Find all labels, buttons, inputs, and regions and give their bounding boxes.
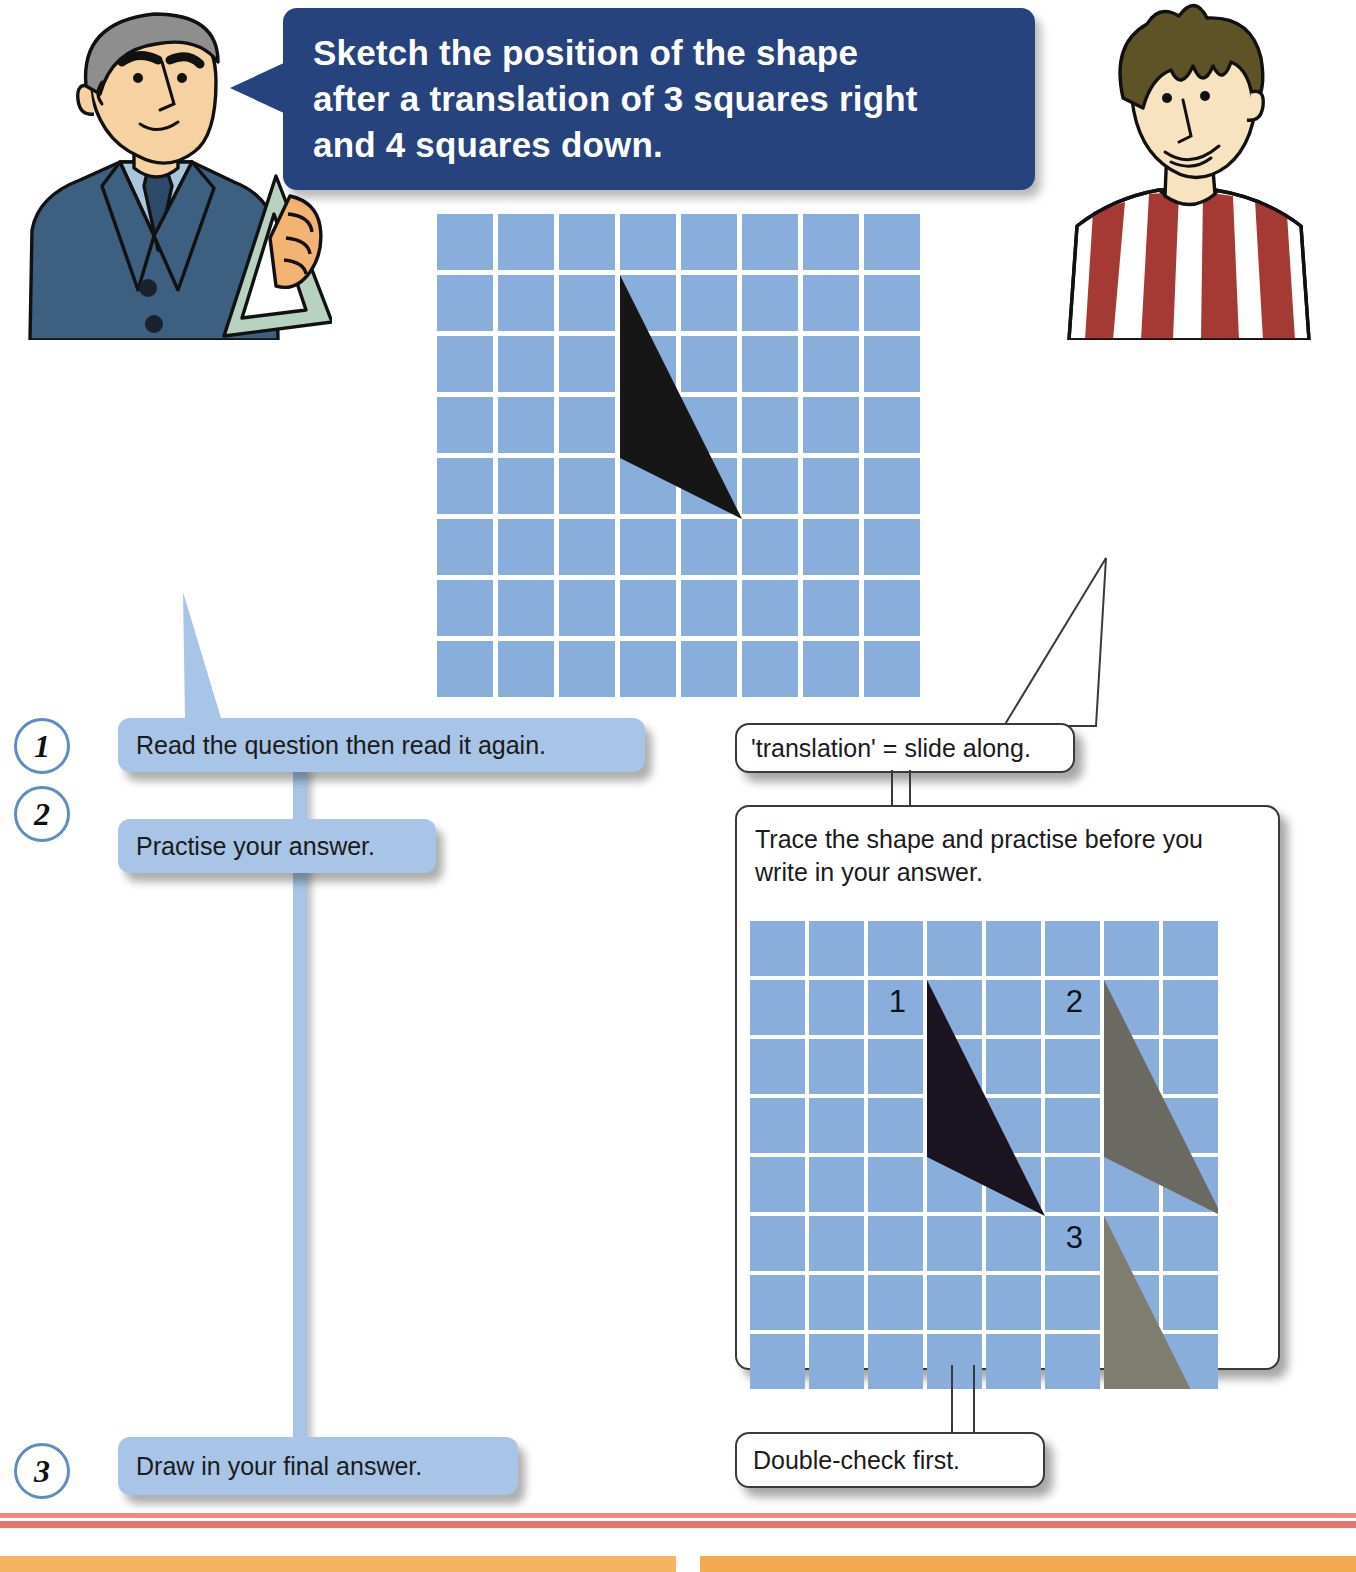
grid-cell[interactable]: [498, 336, 554, 392]
grid-cell[interactable]: [750, 1216, 805, 1271]
grid-cell[interactable]: [742, 336, 798, 392]
grid-cell[interactable]: [803, 397, 859, 453]
grid-cell[interactable]: [803, 519, 859, 575]
grid-cell[interactable]: [864, 336, 920, 392]
grid-cell[interactable]: [437, 519, 493, 575]
grid-cell[interactable]: [1045, 1039, 1100, 1094]
grid-cell[interactable]: [437, 458, 493, 514]
grid-cell[interactable]: [986, 1216, 1041, 1271]
grid-cell[interactable]: [559, 641, 615, 697]
grid-cell[interactable]: [868, 1039, 923, 1094]
trace-practice-panel[interactable]: Trace the shape and practise before you …: [735, 805, 1280, 1370]
grid-cell[interactable]: [750, 980, 805, 1035]
grid-cell[interactable]: [868, 1098, 923, 1153]
grid-cell[interactable]: [809, 1039, 864, 1094]
grid-cell[interactable]: [986, 1275, 1041, 1330]
grid-cell[interactable]: [986, 1039, 1041, 1094]
grid-cell[interactable]: [681, 336, 737, 392]
grid-cell[interactable]: [809, 1098, 864, 1153]
grid-cell[interactable]: [750, 921, 805, 976]
grid-cell[interactable]: [498, 580, 554, 636]
grid-cell[interactable]: [742, 519, 798, 575]
grid-cell[interactable]: [437, 336, 493, 392]
grid-cell[interactable]: [559, 275, 615, 331]
grid-cell[interactable]: [1045, 1157, 1100, 1212]
grid-cell[interactable]: [559, 336, 615, 392]
grid-cell[interactable]: [559, 458, 615, 514]
main-question-grid[interactable]: [437, 214, 920, 701]
grid-cell[interactable]: [809, 1334, 864, 1389]
double-check-callout[interactable]: Double-check first.: [735, 1432, 1045, 1488]
grid-cell[interactable]: [809, 921, 864, 976]
grid-cell[interactable]: [1163, 980, 1218, 1035]
grid-cell[interactable]: [620, 519, 676, 575]
grid-cell[interactable]: [864, 641, 920, 697]
grid-cell[interactable]: [620, 580, 676, 636]
grid-cell[interactable]: [803, 214, 859, 270]
grid-cell[interactable]: [742, 397, 798, 453]
grid-cell[interactable]: [864, 275, 920, 331]
grid-cell[interactable]: [868, 1275, 923, 1330]
grid-cell[interactable]: [437, 580, 493, 636]
grid-cell[interactable]: [742, 580, 798, 636]
grid-cell[interactable]: [927, 1275, 982, 1330]
grid-cell[interactable]: [809, 1157, 864, 1212]
grid-cell[interactable]: [986, 980, 1041, 1035]
grid-cell[interactable]: [986, 1334, 1041, 1389]
step-1-callout[interactable]: Read the question then read it again.: [118, 718, 645, 772]
grid-cell[interactable]: [742, 214, 798, 270]
grid-cell[interactable]: [437, 397, 493, 453]
grid-cell[interactable]: [559, 397, 615, 453]
grid-cell[interactable]: [927, 1216, 982, 1271]
grid-cell[interactable]: [498, 275, 554, 331]
grid-cell[interactable]: [868, 1334, 923, 1389]
grid-cell[interactable]: [437, 275, 493, 331]
grid-cell[interactable]: [1163, 1216, 1218, 1271]
grid-cell[interactable]: [1045, 1098, 1100, 1153]
grid-cell[interactable]: [809, 1216, 864, 1271]
step-3-callout[interactable]: Draw in your final answer.: [118, 1437, 518, 1495]
grid-cell[interactable]: [803, 580, 859, 636]
grid-cell[interactable]: [681, 641, 737, 697]
grid-cell[interactable]: [750, 1275, 805, 1330]
grid-cell[interactable]: [809, 1275, 864, 1330]
grid-cell[interactable]: [1163, 1039, 1218, 1094]
grid-cell[interactable]: [681, 275, 737, 331]
grid-cell[interactable]: [986, 921, 1041, 976]
grid-cell[interactable]: [742, 275, 798, 331]
grid-cell[interactable]: [803, 458, 859, 514]
grid-cell[interactable]: [868, 1157, 923, 1212]
grid-cell[interactable]: [1045, 921, 1100, 976]
grid-cell[interactable]: [809, 980, 864, 1035]
grid-cell[interactable]: [437, 214, 493, 270]
grid-cell[interactable]: [927, 921, 982, 976]
grid-cell[interactable]: [750, 1039, 805, 1094]
grid-cell[interactable]: [498, 458, 554, 514]
grid-cell[interactable]: [864, 397, 920, 453]
grid-cell[interactable]: [498, 519, 554, 575]
translation-tip-callout[interactable]: 'translation' = slide along.: [735, 723, 1075, 773]
grid-cell[interactable]: [868, 921, 923, 976]
grid-cell[interactable]: [681, 214, 737, 270]
grid-cell[interactable]: [864, 580, 920, 636]
grid-cell[interactable]: [864, 519, 920, 575]
grid-cell[interactable]: [1045, 1334, 1100, 1389]
grid-cell[interactable]: [620, 641, 676, 697]
grid-cell[interactable]: [1163, 921, 1218, 976]
grid-cell[interactable]: [864, 214, 920, 270]
grid-cell[interactable]: [803, 641, 859, 697]
grid-cell[interactable]: [498, 397, 554, 453]
grid-cell[interactable]: [1045, 1275, 1100, 1330]
grid-cell[interactable]: [559, 580, 615, 636]
grid-cell[interactable]: [559, 519, 615, 575]
grid-cell[interactable]: [681, 580, 737, 636]
grid-cell[interactable]: [1104, 921, 1159, 976]
grid-cell[interactable]: [498, 641, 554, 697]
grid-cell[interactable]: [803, 275, 859, 331]
grid-cell[interactable]: [681, 519, 737, 575]
grid-cell[interactable]: [742, 458, 798, 514]
practice-grid-container[interactable]: 123: [750, 921, 1218, 1393]
grid-cell[interactable]: [498, 214, 554, 270]
grid-cell[interactable]: [742, 641, 798, 697]
grid-cell[interactable]: [437, 641, 493, 697]
